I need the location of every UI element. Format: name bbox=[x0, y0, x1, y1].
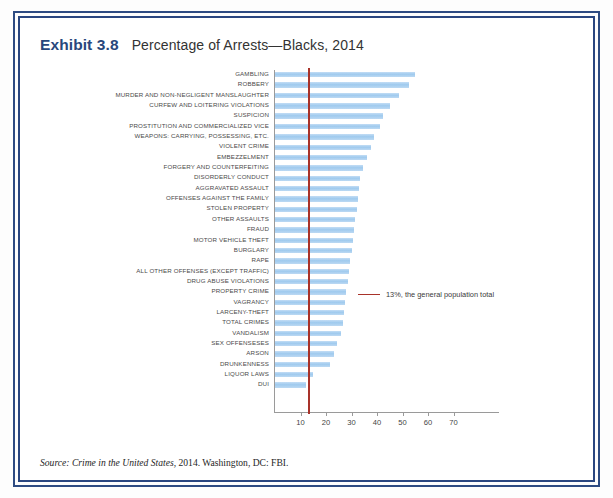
category-label: LIQUOR LAWS bbox=[225, 369, 269, 379]
bar-row: LARCENY-THEFT bbox=[275, 308, 518, 318]
category-label: PROPERTY CRIME bbox=[211, 286, 269, 296]
bar bbox=[275, 155, 367, 160]
bar-row: DRUNKENNESS bbox=[275, 360, 518, 370]
bar-row: SEX OFFENSESES bbox=[275, 339, 518, 349]
bar-row: GAMBLING bbox=[275, 70, 518, 80]
source-prefix: Source: bbox=[40, 457, 69, 468]
bar bbox=[275, 196, 358, 201]
bar-row: WEAPONS: CARRYING, POSSESSING, ETC. bbox=[275, 132, 518, 142]
legend: 13%, the general population total bbox=[358, 290, 494, 299]
bar bbox=[275, 165, 363, 170]
category-label: MURDER AND NON-NEGLIGENT MANSLAUGHTER bbox=[115, 90, 269, 100]
bar bbox=[275, 351, 334, 356]
bar-row: VIOLENT CRIME bbox=[275, 142, 518, 152]
bar bbox=[275, 227, 354, 232]
category-label: AGGRAVATED ASSAULT bbox=[196, 183, 269, 193]
exhibit-page: Exhibit 3.8 Percentage of Arrests—Blacks… bbox=[0, 0, 613, 498]
category-label: LARCENY-THEFT bbox=[216, 307, 269, 317]
bar bbox=[275, 289, 346, 294]
bar-row: TOTAL CRIMES bbox=[275, 318, 518, 328]
bar-row: FORGERY AND COUNTERFEITING bbox=[275, 163, 518, 173]
x-tick-label: 40 bbox=[373, 418, 381, 427]
bar bbox=[275, 93, 399, 98]
x-tick bbox=[454, 412, 455, 416]
bar-row: OTHER ASSAULTS bbox=[275, 215, 518, 225]
category-label: GAMBLING bbox=[235, 69, 269, 79]
bar bbox=[275, 217, 355, 222]
bar bbox=[275, 134, 374, 139]
category-label: SUSPICION bbox=[234, 110, 269, 120]
x-tick-label: 10 bbox=[296, 418, 304, 427]
category-label: FRAUD bbox=[247, 224, 269, 234]
bar bbox=[275, 382, 306, 387]
bar bbox=[275, 103, 390, 108]
category-label: TOTAL CRIMES bbox=[222, 317, 269, 327]
legend-label: 13%, the general population total bbox=[386, 290, 494, 299]
bar-row: DRUG ABUSE VIOLATIONS bbox=[275, 277, 518, 287]
bar-row: PROSTITUTION AND COMMERCIALIZED VICE bbox=[275, 122, 518, 132]
category-label: ROBBERY bbox=[238, 79, 269, 89]
category-label: PROSTITUTION AND COMMERCIALIZED VICE bbox=[129, 121, 269, 131]
x-tick-label: 60 bbox=[424, 418, 432, 427]
source-work: Crime in the United States bbox=[72, 457, 174, 468]
bar bbox=[275, 238, 353, 243]
bar bbox=[275, 279, 348, 284]
bar-row: VAGRANCY bbox=[275, 298, 518, 308]
bar-row: EMBEZZELMENT bbox=[275, 153, 518, 163]
category-label: ARSON bbox=[246, 348, 269, 358]
category-label: STOLEN PROPERTY bbox=[206, 203, 269, 213]
x-tick-label: 30 bbox=[347, 418, 355, 427]
bar-row: RAPE bbox=[275, 256, 518, 266]
x-tick bbox=[428, 412, 429, 416]
x-tick bbox=[301, 412, 302, 416]
bar-row: CURFEW AND LOITERING VIOLATIONS bbox=[275, 101, 518, 111]
reference-line bbox=[308, 68, 309, 414]
bar-row: BURGLARY bbox=[275, 246, 518, 256]
bar bbox=[275, 269, 349, 274]
category-label: OFFENSES AGAINST THE FAMILY bbox=[166, 193, 269, 203]
bar-row: MURDER AND NON-NEGLIGENT MANSLAUGHTER bbox=[275, 91, 518, 101]
bar-row: DISORDERLY CONDUCT bbox=[275, 173, 518, 183]
bar bbox=[275, 362, 330, 367]
bar-row: OFFENSES AGAINST THE FAMILY bbox=[275, 194, 518, 204]
bar bbox=[275, 186, 359, 191]
bar bbox=[275, 82, 409, 87]
category-label: OTHER ASSAULTS bbox=[212, 214, 269, 224]
category-label: WEAPONS: CARRYING, POSSESSING, ETC. bbox=[135, 131, 269, 141]
bar bbox=[275, 72, 415, 77]
category-label: MOTOR VEHICLE THEFT bbox=[193, 235, 269, 245]
exhibit-content: Exhibit 3.8 Percentage of Arrests—Blacks… bbox=[18, 16, 595, 482]
category-label: ALL OTHER OFFENSES (EXCEPT TRAFFIC) bbox=[136, 266, 269, 276]
bar bbox=[275, 207, 357, 212]
category-label: SEX OFFENSESES bbox=[211, 338, 269, 348]
category-label: RAPE bbox=[252, 255, 269, 265]
category-label: DRUG ABUSE VIOLATIONS bbox=[187, 276, 269, 286]
bar-row: ARSON bbox=[275, 349, 518, 359]
bar bbox=[275, 113, 383, 118]
category-label: VANDALISM bbox=[232, 328, 269, 338]
source-note: Source: Crime in the United States, 2014… bbox=[40, 457, 288, 468]
x-tick bbox=[377, 412, 378, 416]
x-tick bbox=[403, 412, 404, 416]
bar-row: LIQUOR LAWS bbox=[275, 370, 518, 380]
source-rest: , 2014. Washington, DC: FBI. bbox=[174, 457, 289, 468]
bar-chart: GAMBLINGROBBERYMURDER AND NON-NEGLIGENT … bbox=[18, 68, 595, 428]
bar bbox=[275, 300, 345, 305]
bar-row: ROBBERY bbox=[275, 80, 518, 90]
bar-row: SUSPICION bbox=[275, 111, 518, 121]
bar-rows: GAMBLINGROBBERYMURDER AND NON-NEGLIGENT … bbox=[275, 70, 518, 420]
x-tick bbox=[352, 412, 353, 416]
category-label: CURFEW AND LOITERING VIOLATIONS bbox=[149, 100, 269, 110]
category-label: FORGERY AND COUNTERFEITING bbox=[164, 162, 269, 172]
category-label: EMBEZZELMENT bbox=[217, 152, 269, 162]
bar-row: FRAUD bbox=[275, 225, 518, 235]
exhibit-header: Exhibit 3.8 Percentage of Arrests—Blacks… bbox=[40, 36, 364, 54]
category-label: DUI bbox=[258, 379, 269, 389]
bar bbox=[275, 145, 371, 150]
category-label: BURGLARY bbox=[234, 245, 269, 255]
category-label: VAGRANCY bbox=[234, 297, 269, 307]
bar bbox=[275, 176, 360, 181]
exhibit-title: Percentage of Arrests—Blacks, 2014 bbox=[132, 37, 364, 53]
bar-row: DUI bbox=[275, 380, 518, 390]
bar-row: AGGRAVATED ASSAULT bbox=[275, 184, 518, 194]
